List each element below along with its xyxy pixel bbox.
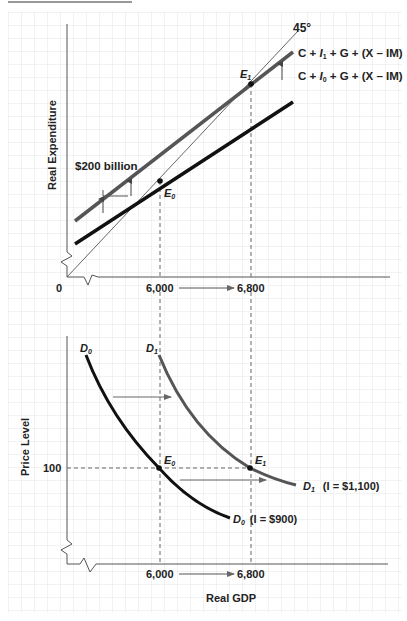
label-45-degree: 45° — [293, 21, 311, 35]
label-line-i1: C + I1 + G + (X – IM) — [298, 47, 403, 60]
point-e0-top — [157, 178, 163, 184]
point-e1-top — [248, 81, 254, 87]
y-tick-100: 100 — [43, 462, 61, 474]
x-tick-6800-bottom: 6,800 — [237, 568, 265, 580]
label-line-i0: C + I0 + G + (X – IM) — [298, 70, 403, 83]
point-e0-bottom — [156, 465, 162, 471]
annotation-200-billion: $200 billion — [75, 160, 138, 172]
x-tick-origin: 0 — [56, 282, 62, 294]
x-tick-6000-bottom: 6,000 — [146, 568, 174, 580]
point-e1-bottom — [247, 465, 253, 471]
figure: Real Expenditure 45° C + I1 + G + (X – I… — [0, 0, 407, 621]
x-axis-label-real-gdp: Real GDP — [206, 592, 256, 604]
y-axis-label-price-level: Price Level — [19, 418, 31, 476]
y-axis-label-real-expenditure: Real Expenditure — [46, 100, 58, 190]
